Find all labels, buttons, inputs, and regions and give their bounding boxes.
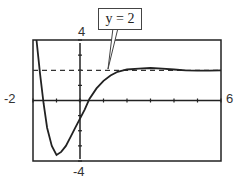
function-curve (37, 40, 222, 155)
xmax-label: 6 (226, 91, 233, 106)
xmin-label: -2 (4, 91, 16, 106)
axes (33, 40, 221, 161)
ymin-label: -4 (73, 164, 85, 179)
ymax-label: 4 (78, 24, 85, 39)
callout-pointer (108, 28, 118, 69)
asymptote-callout: y = 2 (98, 8, 142, 30)
